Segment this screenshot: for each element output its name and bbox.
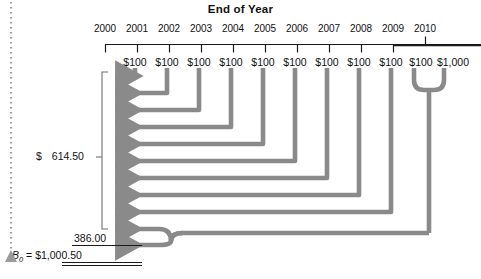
diagram-graphics [0,0,481,279]
discount-arrow-2001 [116,68,135,76]
fork-branch-lower [116,233,183,245]
margin-triangle-marker [5,250,17,262]
bottom-fork [116,229,429,245]
discount-arrows [116,68,391,212]
annuity-bracket [96,72,108,229]
discount-arrow-2005 [116,68,263,144]
discount-arrow-2009 [116,68,391,212]
discount-arrow-2006 [116,68,295,161]
year-2010-merge [414,68,444,233]
merge-u-join-2010 [414,68,444,90]
discount-arrow-2002 [116,68,167,93]
timeline-diagram: End of Year 2000 2001 2002 2003 2004 200… [0,0,481,279]
